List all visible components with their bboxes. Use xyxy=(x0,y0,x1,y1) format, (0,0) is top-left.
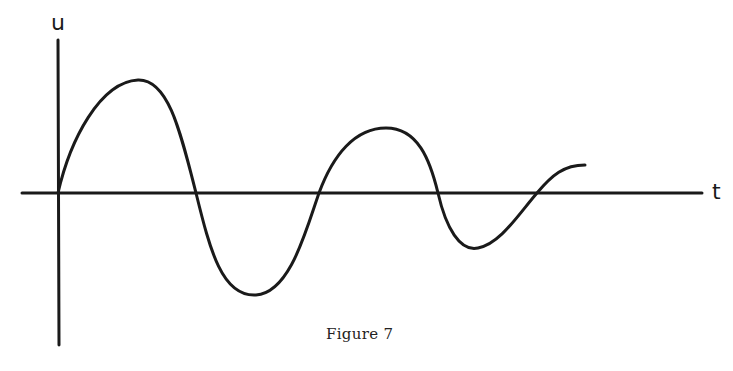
t-axis-label: t xyxy=(712,179,721,204)
u-axis-label: u xyxy=(51,10,65,35)
figure-caption: Figure 7 xyxy=(326,325,393,343)
oscillation-curve xyxy=(58,80,585,295)
damped-oscillation-figure: u t xyxy=(0,0,733,371)
